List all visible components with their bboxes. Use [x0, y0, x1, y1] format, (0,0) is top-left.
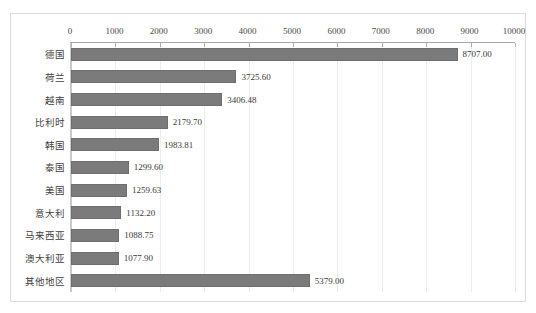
category-label: 韩国 [45, 134, 65, 157]
x-tick-label: 4000 [239, 24, 257, 38]
category-label: 澳大利亚 [25, 247, 65, 270]
category-label: 马来西亚 [25, 224, 65, 247]
x-tick-label: 1000 [105, 24, 123, 38]
bar-row: 德国8707.00 [71, 43, 515, 66]
bar-value-label: 1299.60 [134, 162, 163, 172]
category-label: 荷兰 [45, 66, 65, 89]
category-label: 德国 [45, 43, 65, 66]
bar-container: 1299.60 [71, 156, 163, 179]
gridline [515, 43, 516, 292]
bar-container: 2179.70 [71, 111, 202, 134]
bar-row: 比利时2179.70 [71, 111, 515, 134]
category-label: 美国 [45, 179, 65, 202]
bar-container: 8707.00 [71, 43, 492, 66]
bar[interactable] [71, 161, 129, 174]
x-tick-label: 8000 [416, 24, 434, 38]
bar-value-label: 1259.63 [132, 185, 161, 195]
bar-container: 1077.90 [71, 247, 153, 270]
bar[interactable] [71, 252, 119, 265]
bar-container: 3406.48 [71, 88, 256, 111]
bar-container: 3725.60 [71, 66, 271, 89]
bar-row: 其他地区5379.00 [71, 269, 515, 292]
bar-value-label: 1088.75 [124, 230, 153, 240]
bar-container: 1132.20 [71, 201, 155, 224]
x-tickmark [515, 43, 516, 47]
bar-container: 1983.81 [71, 134, 193, 157]
bar[interactable] [71, 138, 159, 151]
x-tick-label: 10000 [503, 24, 526, 38]
bar-row: 荷兰3725.60 [71, 66, 515, 89]
bar-row: 澳大利亚1077.90 [71, 247, 515, 270]
x-tick-label: 9000 [461, 24, 479, 38]
category-label: 越南 [45, 88, 65, 111]
x-tick-label: 6000 [327, 24, 345, 38]
category-label: 意大利 [35, 201, 65, 224]
bar-container: 5379.00 [71, 269, 344, 292]
x-tick-label: 2000 [150, 24, 168, 38]
x-tick-label: 5000 [283, 24, 301, 38]
bar-row: 越南3406.48 [71, 88, 515, 111]
bar-value-label: 1983.81 [164, 140, 193, 150]
bar[interactable] [71, 116, 168, 129]
category-label: 比利时 [35, 111, 65, 134]
x-tick-label: 0 [68, 24, 73, 38]
bar[interactable] [71, 184, 127, 197]
bar-rows: 德国8707.00荷兰3725.60越南3406.48比利时2179.70韩国1… [71, 43, 515, 292]
bar[interactable] [71, 274, 310, 287]
bar-row: 意大利1132.20 [71, 201, 515, 224]
bar[interactable] [71, 48, 458, 61]
bar-value-label: 8707.00 [463, 49, 492, 59]
bar[interactable] [71, 70, 236, 83]
bar-row: 泰国1299.60 [71, 156, 515, 179]
category-label: 其他地区 [25, 269, 65, 292]
bar-value-label: 1132.20 [126, 208, 155, 218]
bar-value-label: 3406.48 [227, 95, 256, 105]
x-tick-label: 3000 [194, 24, 212, 38]
chart-frame: 0100020003000400050006000700080009000100… [10, 13, 526, 302]
bar[interactable] [71, 93, 222, 106]
plot-area: 德国8707.00荷兰3725.60越南3406.48比利时2179.70韩国1… [70, 42, 515, 292]
category-label: 泰国 [45, 156, 65, 179]
x-axis-tick-labels: 0100020003000400050006000700080009000100… [11, 24, 525, 38]
bar[interactable] [71, 229, 119, 242]
bar-value-label: 5379.00 [315, 276, 344, 286]
bar-value-label: 3725.60 [241, 72, 270, 82]
bar-value-label: 2179.70 [173, 117, 202, 127]
bar-row: 韩国1983.81 [71, 134, 515, 157]
bar-value-label: 1077.90 [124, 253, 153, 263]
bar-row: 马来西亚1088.75 [71, 224, 515, 247]
bar-container: 1259.63 [71, 179, 161, 202]
x-tick-label: 7000 [372, 24, 390, 38]
bar-row: 美国1259.63 [71, 179, 515, 202]
bar-container: 1088.75 [71, 224, 154, 247]
bar[interactable] [71, 206, 121, 219]
